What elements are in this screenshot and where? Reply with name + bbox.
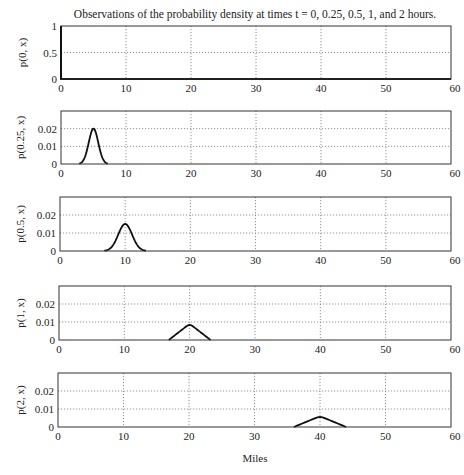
y-tick-label: 0.02: [37, 209, 56, 221]
x-tick-label: 0: [56, 343, 62, 355]
x-tick-label: 0: [57, 254, 63, 266]
y-axis-label: p(0, x): [16, 38, 29, 68]
x-tick-label: 0: [58, 167, 64, 179]
x-tick-label: 10: [121, 82, 133, 94]
y-axis-label: p(1, x): [14, 298, 27, 328]
y-tick-label: 0.5: [43, 47, 57, 59]
x-tick-label: 30: [249, 430, 261, 442]
x-tick-label: 60: [450, 430, 462, 442]
x-tick-label: 30: [251, 82, 263, 94]
subplots: 010203040506000.51p(0, x)010203040506000…: [14, 20, 461, 442]
y-tick-label: 0.01: [38, 140, 57, 152]
y-tick-label: 1: [52, 20, 58, 32]
x-tick-label: 10: [118, 430, 130, 442]
x-tick-label: 10: [121, 167, 133, 179]
x-tick-label: 10: [120, 254, 132, 266]
x-tick-label: 40: [315, 430, 327, 442]
x-tick-label: 30: [250, 254, 262, 266]
y-tick-label: 0: [52, 73, 58, 85]
x-tick-label: 50: [381, 167, 393, 179]
figure-canvas: Observations of the probability density …: [0, 0, 464, 475]
subplot-3: 010203040506000.010.02p(0.5, x): [14, 197, 461, 266]
y-tick-label: 0: [50, 334, 56, 346]
x-tick-label: 50: [381, 82, 393, 94]
x-tick-label: 40: [315, 254, 327, 266]
y-tick-label: 0: [52, 158, 58, 170]
y-axis-label: p(0.25, x): [14, 116, 27, 159]
x-tick-label: 60: [450, 254, 462, 266]
x-tick-label: 60: [450, 82, 462, 94]
x-tick-label: 60: [450, 167, 462, 179]
x-tick-label: 30: [251, 167, 263, 179]
x-tick-label: 50: [380, 343, 392, 355]
x-tick-label: 0: [58, 82, 64, 94]
y-axis-label: p(0.5, x): [14, 205, 27, 243]
x-tick-label: 20: [184, 430, 196, 442]
subplot-4: 010203040506000.010.02p(1, x): [14, 286, 461, 355]
figure: Observations of the probability density …: [0, 0, 464, 475]
subplot-5: 010203040506000.010.02p(2, x): [14, 373, 461, 442]
y-tick-label: 0: [51, 245, 57, 257]
y-axis-label: p(2, x): [14, 385, 27, 415]
figure-title: Observations of the probability density …: [74, 8, 436, 21]
y-tick-label: 0.01: [36, 316, 55, 328]
x-axis-label: Miles: [242, 452, 267, 464]
y-tick-label: 0.01: [37, 227, 56, 239]
x-tick-label: 0: [55, 430, 61, 442]
y-tick-label: 0.02: [38, 123, 57, 135]
y-tick-label: 0.02: [36, 298, 55, 310]
x-tick-label: 40: [316, 82, 328, 94]
x-tick-label: 50: [380, 254, 392, 266]
x-tick-label: 20: [186, 167, 198, 179]
subplot-2: 010203040506000.010.02p(0.25, x): [14, 111, 461, 179]
y-tick-label: 0: [49, 421, 55, 433]
subplot-1: 010203040506000.51p(0, x): [16, 20, 461, 94]
x-tick-label: 60: [450, 343, 462, 355]
x-tick-label: 40: [315, 343, 327, 355]
y-tick-label: 0.02: [35, 385, 54, 397]
x-tick-label: 20: [185, 254, 197, 266]
x-tick-label: 10: [119, 343, 131, 355]
y-tick-label: 0.01: [35, 403, 54, 415]
x-tick-label: 40: [316, 167, 328, 179]
x-tick-label: 50: [380, 430, 392, 442]
x-tick-label: 20: [184, 343, 196, 355]
x-tick-label: 20: [186, 82, 198, 94]
x-tick-label: 30: [250, 343, 262, 355]
